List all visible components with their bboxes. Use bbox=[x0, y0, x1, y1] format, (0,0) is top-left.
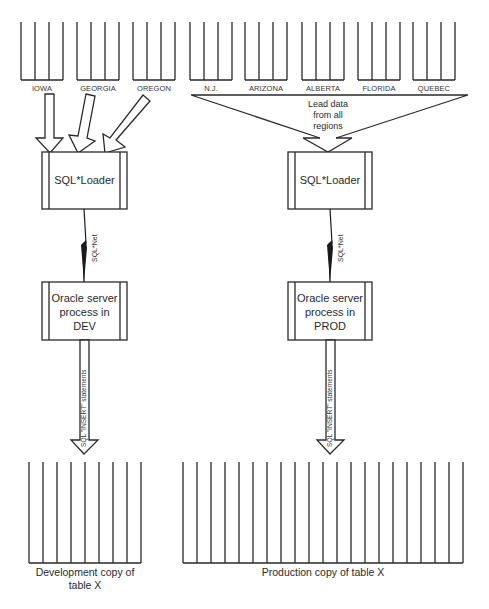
prod-sqlnet-label: SQL*Net bbox=[337, 234, 344, 262]
region-table-quebec bbox=[413, 22, 455, 80]
dev-sqlnet-label: SQL*Net bbox=[91, 234, 98, 262]
dev-input-arrows bbox=[36, 94, 150, 153]
arrow-georgia bbox=[69, 94, 95, 153]
funnel-label-line3: regions bbox=[290, 121, 366, 132]
prod-sqlnet-bolt-icon bbox=[327, 209, 333, 282]
region-label-quebec: QUEBEC bbox=[409, 84, 459, 93]
dev-insert-label: SQL "INSERT" statements bbox=[80, 369, 87, 447]
funnel-label-line2: from all bbox=[290, 110, 366, 121]
dev-table-x bbox=[29, 462, 141, 563]
prod-insert-label: SQL "INSERT" statements bbox=[326, 369, 333, 447]
funnel-label: Lead data from all regions bbox=[290, 99, 366, 132]
dev-sqlloader-label: SQL*Loader bbox=[49, 173, 120, 187]
prod-server-line1: Oracle server bbox=[295, 291, 365, 305]
prod-sqlloader-label: SQL*Loader bbox=[295, 173, 365, 187]
region-table-iowa bbox=[21, 22, 63, 80]
dev-server-line2: process in bbox=[49, 305, 120, 319]
dev-server-label: Oracle server process in DEV bbox=[49, 291, 120, 333]
region-label-alberta: ALBERTA bbox=[298, 84, 348, 93]
region-table-oregon bbox=[133, 22, 175, 80]
prod-server-label: Oracle server process in PROD bbox=[295, 291, 365, 333]
dev-table-caption-line2: table X bbox=[20, 579, 150, 592]
dev-sqlnet-bolt-icon bbox=[81, 209, 87, 282]
region-label-oregon: OREGON bbox=[129, 84, 179, 93]
region-tables bbox=[21, 22, 455, 80]
prod-table-x bbox=[183, 462, 463, 563]
prod-server-line3: PROD bbox=[295, 319, 365, 333]
region-table-georgia bbox=[77, 22, 119, 80]
arrow-iowa bbox=[36, 94, 63, 153]
dev-server-line3: DEV bbox=[49, 319, 120, 333]
region-label-arizona: ARIZONA bbox=[241, 84, 291, 93]
region-table-florida bbox=[358, 22, 400, 80]
region-label-georgia: GEORGIA bbox=[73, 84, 123, 93]
dev-table-caption-line1: Development copy of bbox=[20, 566, 150, 579]
prod-table-caption: Production copy of table X bbox=[233, 566, 413, 579]
funnel-label-line1: Lead data bbox=[290, 99, 366, 110]
dev-table-caption: Development copy of table X bbox=[20, 566, 150, 592]
arrow-oregon bbox=[103, 95, 150, 153]
prod-server-line2: process in bbox=[295, 305, 365, 319]
region-label-florida: FLORIDA bbox=[354, 84, 404, 93]
region-table-alberta bbox=[302, 22, 344, 80]
region-label-nj: N.J. bbox=[186, 84, 236, 93]
region-table-nj bbox=[190, 22, 232, 80]
dev-server-line1: Oracle server bbox=[49, 291, 120, 305]
region-table-arizona bbox=[245, 22, 287, 80]
region-label-iowa: IOWA bbox=[17, 84, 67, 93]
